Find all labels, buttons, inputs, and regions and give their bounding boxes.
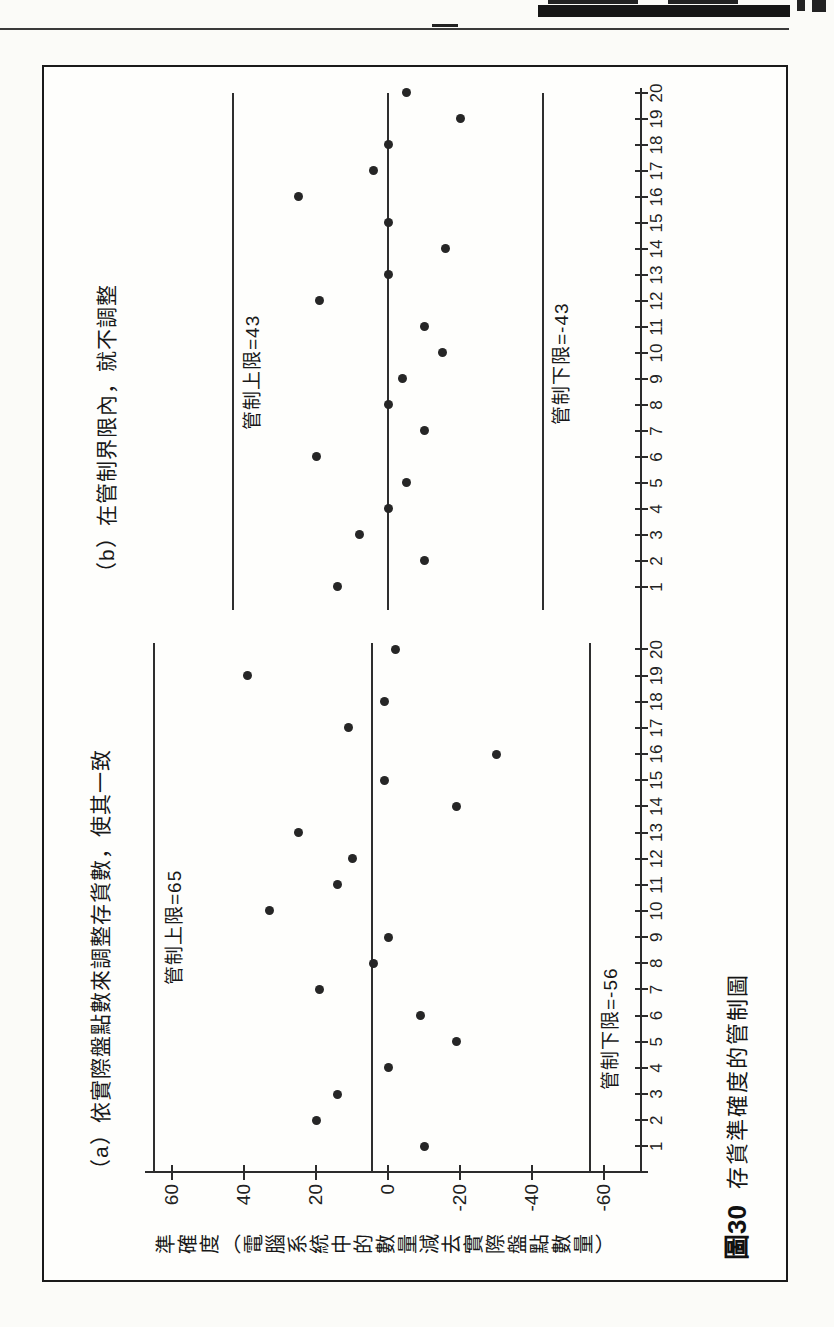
observation-tick-label: 4 (647, 1055, 667, 1081)
data-point (420, 557, 429, 566)
value-axis-tick (387, 1165, 389, 1180)
data-point (416, 1011, 425, 1020)
observation-tick-label: 8 (647, 950, 667, 976)
data-point (420, 1142, 429, 1151)
observation-tick-label: 20 (647, 637, 667, 663)
value-axis-tick (315, 1165, 317, 1180)
page-header-rule (0, 28, 789, 30)
observation-tick-label: 1 (647, 1133, 667, 1159)
page-header-text-fragment (668, 0, 738, 4)
value-tick-label: -40 (521, 1184, 543, 1242)
value-tick-label: 20 (305, 1184, 327, 1242)
panel-a-ucl-line (153, 643, 155, 1172)
observation-tick-label: 7 (647, 976, 667, 1002)
value-axis-tick (243, 1165, 245, 1180)
panel-a-ucl-label: 管制上限=65 (159, 870, 186, 985)
panel-b-lcl-label: 管制下限=-43 (546, 302, 573, 425)
data-point (492, 750, 501, 759)
data-point (312, 1116, 321, 1125)
panel-b-ucl-label: 管制上限=43 (237, 315, 264, 430)
page-header-text-fragment (432, 24, 458, 27)
data-point (369, 959, 378, 968)
observation-axis-line (640, 88, 642, 1173)
page-header-bar (538, 5, 790, 17)
data-point (294, 193, 303, 202)
observation-tick-label: 2 (647, 1107, 667, 1133)
observation-tick-label: 19 (647, 663, 667, 689)
observation-tick-label: 18 (647, 689, 667, 715)
page-header-text-fragment (548, 0, 638, 4)
observation-tick-label: 14 (647, 236, 667, 262)
data-point (391, 645, 400, 654)
data-point (384, 271, 393, 280)
data-point (384, 505, 393, 514)
panel-b-center-line (387, 93, 389, 610)
value-tick-label: 40 (233, 1184, 255, 1242)
panel-b-ucl-line (232, 93, 234, 610)
observation-tick-label: 15 (647, 210, 667, 236)
value-tick-label: -60 (593, 1184, 615, 1242)
data-point (384, 219, 393, 228)
data-point (384, 1063, 393, 1072)
data-point (456, 115, 465, 124)
data-point (420, 323, 429, 332)
figure-caption-number: 圖30 (716, 1205, 753, 1260)
panel-a-lcl-label: 管制下限=-56 (595, 967, 622, 1090)
observation-tick-label: 13 (647, 820, 667, 846)
value-axis-tick (603, 1165, 605, 1180)
observation-tick-label: 3 (647, 522, 667, 548)
observation-tick-label: 16 (647, 741, 667, 767)
value-axis-tick (531, 1165, 533, 1180)
observation-tick-label: 9 (647, 924, 667, 950)
data-point (265, 907, 274, 916)
data-point (348, 854, 357, 863)
panel-a-lcl-line (589, 643, 591, 1172)
data-point (452, 1037, 461, 1046)
observation-tick-label: 12 (647, 288, 667, 314)
data-point (344, 723, 353, 732)
data-point (315, 985, 324, 994)
page-header-text-fragment (812, 0, 826, 12)
observation-tick-label: 16 (647, 184, 667, 210)
data-point (312, 453, 321, 462)
observation-tick-label: 10 (647, 340, 667, 366)
value-tick-label: -20 (449, 1184, 471, 1242)
data-point (402, 89, 411, 98)
observation-tick-label: 5 (647, 1029, 667, 1055)
data-point (355, 531, 364, 540)
observation-tick-label: 8 (647, 392, 667, 418)
observation-tick-label: 14 (647, 793, 667, 819)
observation-tick-label: 15 (647, 767, 667, 793)
observation-tick-label: 9 (647, 366, 667, 392)
data-point (441, 245, 450, 254)
value-tick-label: 0 (377, 1184, 399, 1242)
data-point (398, 375, 407, 384)
observation-tick-label: 12 (647, 846, 667, 872)
data-point (380, 776, 389, 785)
value-axis-tick (459, 1165, 461, 1180)
data-point (452, 802, 461, 811)
panel-a-title: （a）依實際盤點數來調整存貨數，使其一致 (84, 749, 114, 1180)
value-tick-label: 60 (161, 1184, 183, 1242)
figure-box: （a）依實際盤點數來調整存貨數，使其一致 （b）在管制界限內，就不調整 管制上限… (42, 65, 788, 1282)
observation-tick-label: 10 (647, 898, 667, 924)
value-axis-tick (171, 1165, 173, 1180)
observation-tick-label: 1 (647, 574, 667, 600)
data-point (384, 401, 393, 410)
observation-tick-label: 17 (647, 715, 667, 741)
data-point (333, 583, 342, 592)
observation-tick-label: 2 (647, 548, 667, 574)
panel-a-center-line (371, 643, 373, 1172)
data-point (333, 880, 342, 889)
page-header-text-fragment (797, 0, 805, 11)
observation-tick-label: 3 (647, 1081, 667, 1107)
observation-tick-label: 11 (647, 872, 667, 898)
data-point (333, 1090, 342, 1099)
data-point (384, 933, 393, 942)
observation-tick-label: 6 (647, 444, 667, 470)
data-point (369, 167, 378, 176)
figure-caption-text: 存貨準確度的管制圖 (719, 973, 751, 1189)
observation-tick-label: 18 (647, 132, 667, 158)
panel-b-title: （b）在管制界限內，就不調整 (90, 284, 120, 583)
observation-tick-label: 13 (647, 262, 667, 288)
